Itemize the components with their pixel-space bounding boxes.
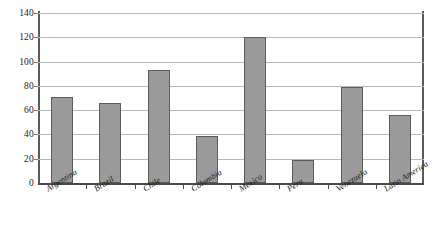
plot-area	[38, 13, 424, 183]
y-tick-label: 60	[0, 105, 34, 115]
y-tick-label: 100	[0, 57, 34, 67]
y-tick-label: 40	[0, 129, 34, 139]
y-tick-label: 140	[0, 8, 34, 18]
bar	[244, 37, 266, 183]
bars-group	[38, 13, 424, 183]
y-tick-label: 0	[0, 178, 34, 188]
bar	[99, 103, 121, 183]
y-tick-label: 120	[0, 32, 34, 42]
bar	[148, 70, 170, 183]
y-tick-label: 80	[0, 81, 34, 91]
bar-chart: 140 120 100 80 60 40 20 0 ArgentinaBrazi…	[0, 0, 448, 231]
x-axis-labels: ArgentinaBrazilChileColombiaMexicoPeruVe…	[38, 185, 448, 231]
y-tick-label: 20	[0, 154, 34, 164]
y-axis-labels: 140 120 100 80 60 40 20 0	[0, 0, 34, 231]
